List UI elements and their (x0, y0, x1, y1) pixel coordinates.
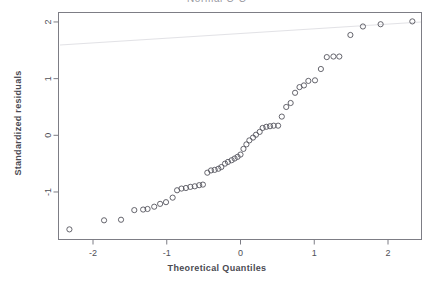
data-point (247, 138, 252, 143)
data-point (170, 195, 175, 200)
y-axis-tick-labels: -1012 (43, 19, 53, 196)
y-tick-label-0: -1 (43, 188, 53, 196)
plot-graphic: -2-1012 -1012 (0, 0, 434, 284)
x-tick-label-3: 1 (312, 248, 317, 258)
data-point (279, 114, 284, 119)
x-tick-label-1: -1 (163, 248, 171, 258)
data-point (284, 104, 289, 109)
y-tick-label-3: 2 (43, 19, 53, 24)
y-axis-ticks (54, 22, 59, 192)
x-axis-tick-labels: -2-1012 (89, 248, 391, 258)
y-tick-label-2: 1 (43, 76, 53, 81)
x-tick-label-2: 0 (238, 248, 243, 258)
data-point (158, 201, 163, 206)
data-point (253, 132, 258, 137)
data-point (288, 100, 293, 105)
data-point (331, 54, 336, 59)
data-point (67, 227, 72, 232)
y-axis-label: Standardized residuals (13, 53, 23, 193)
data-point (200, 182, 205, 187)
data-point (410, 19, 415, 24)
data-point (337, 54, 342, 59)
x-tick-label-0: -2 (89, 248, 97, 258)
x-axis-ticks (93, 240, 388, 245)
qq-plot-canvas: Normal Q-Q -2-1012 -1012 Theoretical Qua… (0, 0, 434, 284)
x-axis-label: Theoretical Quantiles (0, 263, 434, 273)
data-point (360, 24, 365, 29)
data-point (152, 204, 157, 209)
data-point (250, 135, 255, 140)
data-point-series (67, 19, 415, 232)
data-point (318, 66, 323, 71)
x-tick-label-4: 2 (385, 248, 390, 258)
data-point (132, 208, 137, 213)
data-point (163, 200, 168, 205)
data-point (101, 218, 106, 223)
data-point (118, 217, 123, 222)
data-point (312, 78, 317, 83)
data-point (324, 55, 329, 60)
data-point (301, 83, 306, 88)
plot-frame (59, 13, 422, 240)
scan-artifact-line (60, 22, 421, 45)
data-point (348, 32, 353, 37)
data-point (292, 90, 297, 95)
y-tick-label-1: 0 (43, 133, 53, 138)
data-point (306, 78, 311, 83)
